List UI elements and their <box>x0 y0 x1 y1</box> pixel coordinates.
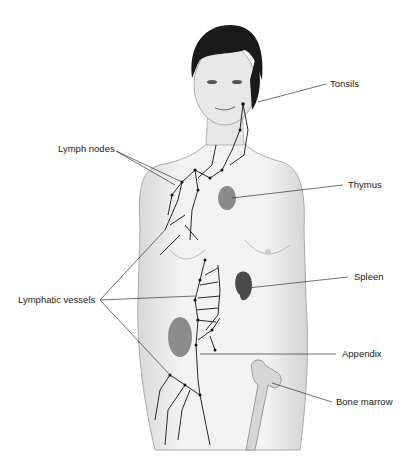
label-lymph-nodes: Lymph nodes <box>58 143 115 154</box>
label-spleen: Spleen <box>354 271 384 282</box>
label-bone-marrow: Bone marrow <box>336 396 393 407</box>
appendix-organ <box>168 317 192 357</box>
label-thymus: Thymus <box>348 179 382 190</box>
label-tonsils: Tonsils <box>330 78 359 89</box>
torso-shape <box>138 140 308 450</box>
label-appendix: Appendix <box>342 348 382 359</box>
lymphatic-system-diagram: Tonsils Lymph nodes Thymus Spleen Lympha… <box>0 0 413 465</box>
label-lymphatic-vessels: Lymphatic vessels <box>18 294 95 305</box>
